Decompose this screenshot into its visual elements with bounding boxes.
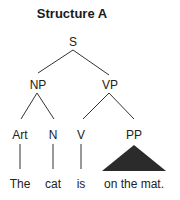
node-v: V xyxy=(77,128,85,142)
node-np: NP xyxy=(30,78,47,92)
edge-vp-pp xyxy=(109,93,134,119)
edge-s-vp xyxy=(73,50,109,75)
word-cat: cat xyxy=(45,177,62,191)
edge-np-n xyxy=(37,93,54,119)
node-s: S xyxy=(69,35,77,49)
word-is: is xyxy=(77,177,86,191)
node-n: N xyxy=(49,128,58,142)
node-vp: VP xyxy=(102,78,118,92)
node-art: Art xyxy=(12,128,28,142)
syntax-tree-diagram: Structure A S NP VP Art N V PP The cat i… xyxy=(0,0,180,200)
word-on-the-mat: on the mat. xyxy=(104,177,164,191)
word-the: The xyxy=(10,177,31,191)
edge-vp-v xyxy=(83,93,109,119)
pp-triangle-icon xyxy=(102,145,166,171)
edge-np-art xyxy=(21,93,37,119)
node-pp: PP xyxy=(126,128,142,142)
edge-s-np xyxy=(38,50,73,73)
diagram-title: Structure A xyxy=(37,6,108,21)
